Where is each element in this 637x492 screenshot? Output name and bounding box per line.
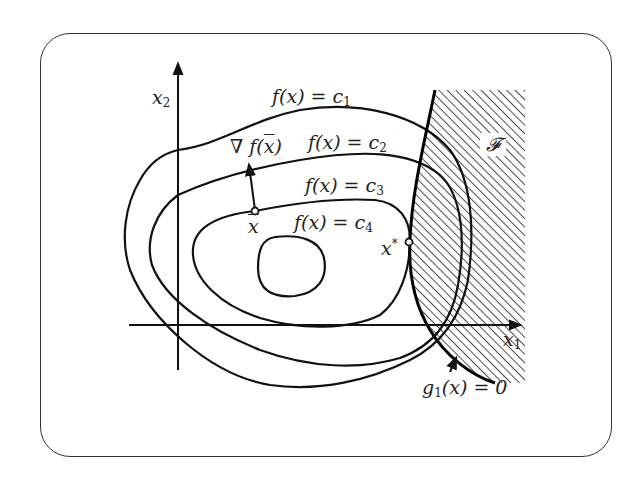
constraint-label: g1(x) = 0 — [422, 378, 507, 399]
point-xstar-marker — [406, 239, 413, 246]
level-set-c4 — [258, 236, 325, 296]
level-label-c3: f(x) = c3 — [305, 176, 384, 197]
level-label-c1: f(x) = c1 — [272, 87, 351, 108]
point-xbar-marker — [252, 208, 259, 215]
point-xbar-label: x — [248, 217, 259, 236]
contour-diagram — [0, 0, 637, 492]
y-axis-label: x2 — [152, 88, 170, 109]
level-label-c2: f(x) = c2 — [308, 133, 387, 154]
feasible-region-label: 𝓕 — [480, 133, 506, 156]
point-xstar-label: x* — [381, 238, 398, 258]
x-axis-label: x1 — [503, 330, 521, 351]
gradient-arrow — [249, 165, 255, 210]
constraint-pointer-arrow — [450, 358, 456, 372]
gradient-label: ∇ f(x) — [230, 137, 282, 156]
level-label-c4: f(x) = c4 — [294, 213, 373, 234]
